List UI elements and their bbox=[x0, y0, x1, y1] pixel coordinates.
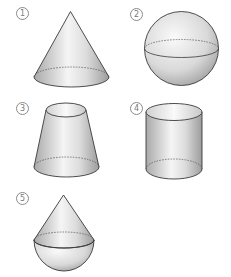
sphere-shape bbox=[145, 12, 219, 86]
label-1: 1 bbox=[16, 7, 29, 20]
cone-shape bbox=[34, 12, 109, 88]
cone-hemisphere-shape bbox=[34, 195, 94, 271]
solids-figure bbox=[0, 0, 231, 277]
label-2: 2 bbox=[130, 8, 143, 21]
frustum-shape bbox=[34, 103, 99, 177]
label-3: 3 bbox=[16, 102, 29, 115]
cylinder-shape bbox=[146, 104, 202, 180]
label-4: 4 bbox=[130, 102, 143, 115]
label-5: 5 bbox=[16, 192, 29, 205]
